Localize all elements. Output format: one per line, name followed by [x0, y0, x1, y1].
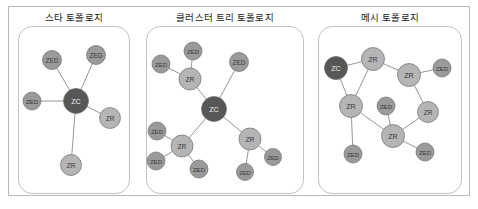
node-zed-c-zed-t1[interactable]: ZED — [184, 42, 202, 60]
node-zed-c-zed-l1[interactable]: ZED — [148, 122, 166, 140]
topology-panel-star: 스타 토폴로지ZCZEDZEDZEDZRZR — [18, 12, 130, 194]
node-shape — [418, 102, 439, 123]
node-shape — [382, 125, 405, 148]
node-zr-s-zr1[interactable]: ZR — [100, 108, 121, 129]
node-shape — [171, 135, 193, 157]
panel-title-mesh: 메시 토폴로지 — [318, 12, 462, 24]
node-shape — [398, 64, 421, 87]
node-shape — [362, 48, 385, 71]
node-zr-c-zr-r[interactable]: ZR — [239, 128, 261, 150]
node-zed-m-zed1[interactable]: ZED — [433, 59, 451, 77]
node-shape — [148, 122, 166, 140]
node-zr-m-zr1[interactable]: ZR — [362, 48, 385, 71]
node-shape — [344, 145, 362, 163]
node-zed-c-zed-r2[interactable]: ZED — [237, 164, 254, 181]
node-zed-c-zed-l2[interactable]: ZED — [147, 152, 165, 170]
node-zc-m-zc[interactable]: ZC — [325, 57, 348, 80]
node-shape — [43, 51, 62, 70]
node-shape — [179, 68, 201, 90]
topology-figure: 스타 토폴로지ZCZEDZEDZEDZRZR클러스터 트리 토폴로지ZCZRZE… — [0, 0, 478, 209]
node-shape — [202, 97, 227, 122]
node-shape — [230, 53, 249, 72]
node-zed-m-zed3[interactable]: ZED — [344, 145, 362, 163]
node-zr-s-zr2[interactable]: ZR — [61, 155, 82, 176]
panel-title-cluster-tree: 클러스터 트리 토폴로지 — [146, 12, 304, 24]
node-zr-c-zr-t[interactable]: ZR — [179, 68, 201, 90]
node-zed-c-zed-t2[interactable]: ZED — [152, 55, 170, 73]
topology-panel-cluster-tree: 클러스터 트리 토폴로지ZCZRZEDZEDZEDZRZEDZEDZEDZRZE… — [146, 12, 304, 194]
node-zed-m-zed4[interactable]: ZED — [416, 143, 434, 161]
node-zed-c-zed-l3[interactable]: ZED — [190, 160, 208, 178]
node-shape — [325, 57, 348, 80]
node-shape — [61, 155, 82, 176]
node-zed-s-zed1[interactable]: ZED — [43, 51, 62, 70]
topology-graph-cluster-tree: ZCZRZEDZEDZEDZRZEDZEDZEDZRZEDZED — [146, 26, 304, 194]
topology-panel-mesh: 메시 토폴로지ZCZRZRZEDZRZEDZRZRZEDZED — [318, 12, 462, 194]
node-group: ZCZRZEDZEDZEDZRZEDZEDZEDZRZEDZED — [147, 42, 282, 181]
node-zr-m-zr2[interactable]: ZR — [398, 64, 421, 87]
node-zed-c-zed-top-r[interactable]: ZED — [230, 53, 249, 72]
node-shape — [237, 164, 254, 181]
node-shape — [147, 152, 165, 170]
node-shape — [190, 160, 208, 178]
node-zr-c-zr-l[interactable]: ZR — [171, 135, 193, 157]
topology-graph-star: ZCZEDZEDZEDZRZR — [18, 26, 130, 194]
node-zed-s-zed2[interactable]: ZED — [87, 46, 106, 65]
node-shape — [265, 149, 282, 166]
node-shape — [377, 97, 395, 115]
node-group: ZCZEDZEDZEDZRZR — [23, 46, 121, 176]
node-shape — [416, 143, 434, 161]
node-zed-m-zed2[interactable]: ZED — [377, 97, 395, 115]
node-zr-m-zr4[interactable]: ZR — [418, 102, 439, 123]
node-zr-m-zr5[interactable]: ZR — [382, 125, 405, 148]
node-shape — [23, 92, 41, 110]
node-zc-s-zc[interactable]: ZC — [64, 89, 89, 114]
node-zr-m-zr3[interactable]: ZR — [340, 95, 363, 118]
node-shape — [184, 42, 202, 60]
node-shape — [100, 108, 121, 129]
node-shape — [87, 46, 106, 65]
node-shape — [64, 89, 89, 114]
node-shape — [340, 95, 363, 118]
node-shape — [152, 55, 170, 73]
node-shape — [239, 128, 261, 150]
topology-graph-mesh: ZCZRZRZEDZRZEDZRZRZEDZED — [318, 26, 462, 194]
node-zed-c-zed-r1[interactable]: ZED — [265, 149, 282, 166]
node-shape — [433, 59, 451, 77]
panel-title-star: 스타 토폴로지 — [18, 12, 130, 24]
node-zed-s-zed3[interactable]: ZED — [23, 92, 41, 110]
node-group: ZCZRZRZEDZRZEDZRZRZEDZED — [325, 48, 452, 164]
node-zc-c-zc[interactable]: ZC — [202, 97, 227, 122]
